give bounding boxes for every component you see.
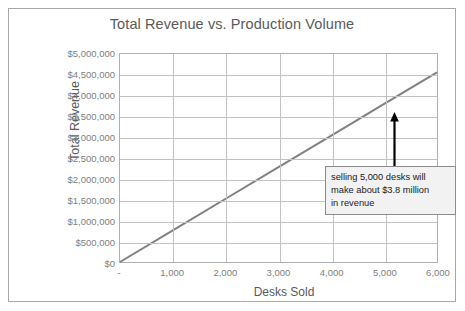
- gridline-horizontal: [120, 75, 437, 76]
- chart-title: Total Revenue vs. Production Volume: [9, 16, 455, 32]
- gridline-vertical: [173, 54, 174, 262]
- callout-line-2: make about $3.8 million: [331, 184, 450, 197]
- y-tick-label: $1,500,000: [15, 195, 115, 206]
- y-axis-tick-labels: $0$500,000$1,000,000$1,500,000$2,000,000…: [11, 53, 115, 263]
- revenue-callout-box: selling 5,000 desks will make about $3.8…: [325, 166, 456, 215]
- y-tick-label: $500,000: [15, 237, 115, 248]
- gridline-horizontal: [120, 243, 437, 244]
- y-tick-label: $3,000,000: [15, 132, 115, 143]
- y-tick-label: $2,000,000: [15, 174, 115, 185]
- gridline-horizontal: [120, 96, 437, 97]
- gridline-vertical: [226, 54, 227, 262]
- chart-card: Total Revenue vs. Production Volume Tota…: [8, 8, 456, 302]
- gridline-vertical: [333, 54, 334, 262]
- gridline-vertical: [386, 54, 387, 262]
- gridline-horizontal: [120, 222, 437, 223]
- y-tick-label: $2,500,000: [15, 153, 115, 164]
- y-tick-label: $5,000,000: [15, 48, 115, 59]
- callout-arrow-icon: [390, 112, 399, 168]
- y-tick-label: $3,500,000: [15, 111, 115, 122]
- y-tick-label: $1,000,000: [15, 216, 115, 227]
- y-tick-label: $4,500,000: [15, 69, 115, 80]
- callout-line-1: selling 5,000 desks will: [331, 171, 450, 184]
- x-axis-tick-labels: -1,0002,0003,0004,0005,0006,000: [119, 267, 438, 281]
- callout-line-3: in revenue: [331, 197, 450, 210]
- y-tick-label: $4,000,000: [15, 90, 115, 101]
- x-tick-label: 6,000: [403, 267, 465, 278]
- x-axis-title: Desks Sold: [119, 285, 449, 299]
- gridline-vertical: [280, 54, 281, 262]
